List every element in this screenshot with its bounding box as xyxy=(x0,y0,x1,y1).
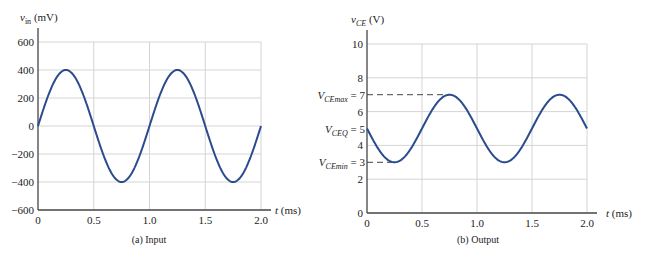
annotation-label: VCEmin = 3 xyxy=(319,156,366,171)
x-tick-label: 1.5 xyxy=(525,217,539,229)
y-tick-label: 0 xyxy=(358,207,364,219)
x-tick-label: 0 xyxy=(364,217,370,229)
input-chart-caption: (a) Input xyxy=(132,234,167,246)
x-tick-label: 0.5 xyxy=(87,214,101,226)
y-tick-label: 10 xyxy=(352,38,364,50)
y-tick-label: −200 xyxy=(11,148,34,160)
y-tick-label: 0 xyxy=(29,120,35,132)
x-tick-label: 0 xyxy=(35,214,41,226)
y-tick-label: 8 xyxy=(358,72,364,84)
y-tick-label: 2 xyxy=(358,173,364,185)
input-x-axis-label: t (ms) xyxy=(275,204,301,217)
input-chart: 6004002000−200−400−600 00.51.01.52.0 vin… xyxy=(11,11,301,246)
output-chart-axes xyxy=(367,30,597,213)
output-y-axis-label: vCE (V) xyxy=(351,13,384,28)
x-tick-label: 0.5 xyxy=(415,217,429,229)
x-tick-label: 1.0 xyxy=(143,214,157,226)
output-chart-x-ticks: 00.51.01.52.0 xyxy=(364,217,594,229)
y-tick-label: 400 xyxy=(18,64,35,76)
y-tick-label: 4 xyxy=(358,139,364,151)
x-tick-label: 1.0 xyxy=(470,217,484,229)
output-chart: 1086420 00.51.01.52.0 VCEmax = 7VCEQ = 5… xyxy=(317,13,632,246)
output-chart-annotations: VCEmax = 7VCEQ = 5VCEmin = 3 xyxy=(317,89,449,172)
x-tick-label: 1.5 xyxy=(198,214,212,226)
figure: 6004002000−200−400−600 00.51.01.52.0 vin… xyxy=(0,0,647,258)
x-tick-label: 2.0 xyxy=(254,214,268,226)
input-chart-axes xyxy=(38,28,271,210)
x-tick-label: 2.0 xyxy=(580,217,594,229)
y-tick-label: 6 xyxy=(358,106,364,118)
output-x-axis-label: t (ms) xyxy=(606,207,632,220)
output-chart-caption: (b) Output xyxy=(457,234,499,246)
annotation-label: VCEQ = 5 xyxy=(325,123,365,138)
y-tick-label: 600 xyxy=(18,36,35,48)
y-tick-label: −600 xyxy=(11,204,34,216)
annotation-label: VCEmax = 7 xyxy=(317,89,365,104)
input-chart-y-ticks: 6004002000−200−400−600 xyxy=(11,36,34,216)
y-tick-label: 200 xyxy=(18,92,35,104)
input-y-axis-label: vin (mV) xyxy=(20,11,58,26)
y-tick-label: −400 xyxy=(11,176,34,188)
input-chart-x-ticks: 00.51.01.52.0 xyxy=(35,214,268,226)
